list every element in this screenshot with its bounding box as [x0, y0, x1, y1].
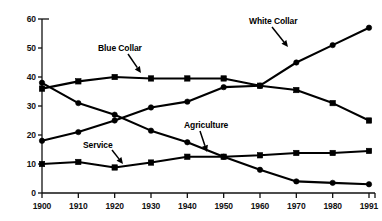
- x-axis-label-1930: 1930: [134, 201, 168, 211]
- x-axis-label-1910: 1910: [61, 201, 95, 211]
- series-line-service: [42, 151, 369, 168]
- marker-blue-collar: [112, 74, 117, 79]
- annotation-label-white-collar: White Collar: [249, 16, 297, 26]
- marker-agriculture: [366, 182, 371, 187]
- marker-white-collar: [257, 83, 262, 88]
- chart-series-lines: [42, 28, 369, 185]
- marker-blue-collar: [294, 87, 299, 92]
- marker-service: [185, 154, 190, 159]
- x-axis-label-1960: 1960: [243, 201, 277, 211]
- marker-white-collar: [185, 99, 190, 104]
- marker-blue-collar: [185, 76, 190, 81]
- x-axis-label-1900: 1900: [25, 201, 59, 211]
- x-axis-label-1980: 1980: [316, 201, 350, 211]
- marker-service: [330, 150, 335, 155]
- marker-agriculture: [330, 180, 335, 185]
- marker-agriculture: [148, 128, 153, 133]
- marker-agriculture: [294, 179, 299, 184]
- marker-service: [148, 160, 153, 165]
- y-axis-label-40: 40: [12, 72, 36, 82]
- marker-service: [257, 153, 262, 158]
- marker-agriculture: [185, 140, 190, 145]
- marker-blue-collar: [39, 86, 44, 91]
- marker-service: [294, 150, 299, 155]
- chart-plot-area: [0, 0, 382, 221]
- marker-white-collar: [39, 138, 44, 143]
- x-axis-label-1970: 1970: [279, 201, 313, 211]
- x-axis-label-1991: 1991: [352, 201, 382, 211]
- marker-agriculture: [257, 167, 262, 172]
- arrow-shaft-service: [112, 150, 119, 159]
- x-axis-label-1940: 1940: [170, 201, 204, 211]
- x-axis-label-1920: 1920: [98, 201, 132, 211]
- y-axis-label-0: 0: [12, 188, 36, 198]
- y-axis-label-60: 60: [12, 14, 36, 24]
- marker-service: [39, 161, 44, 166]
- marker-white-collar: [366, 25, 371, 30]
- annotation-label-blue-collar: Blue Collar: [98, 43, 142, 53]
- marker-blue-collar: [330, 100, 335, 105]
- chart-tick-marks: [38, 19, 375, 198]
- marker-white-collar: [112, 118, 117, 123]
- y-axis-label-10: 10: [12, 159, 36, 169]
- arrow-shaft-agriculture: [200, 131, 205, 146]
- marker-blue-collar: [76, 79, 81, 84]
- marker-agriculture: [39, 80, 44, 85]
- chart-axes: [42, 19, 375, 193]
- arrow-shaft-blue-collar: [128, 54, 137, 68]
- marker-service: [112, 165, 117, 170]
- marker-white-collar: [330, 42, 335, 47]
- employment-sector-line-chart: 0102030405060 19001910192019301940195019…: [0, 0, 382, 221]
- marker-service: [221, 154, 226, 159]
- series-line-blue-collar: [42, 77, 369, 121]
- marker-service: [76, 159, 81, 164]
- marker-blue-collar: [221, 76, 226, 81]
- y-axis-label-20: 20: [12, 130, 36, 140]
- x-axis-label-1950: 1950: [207, 201, 241, 211]
- marker-blue-collar: [148, 76, 153, 81]
- marker-white-collar: [294, 60, 299, 65]
- marker-agriculture: [112, 112, 117, 117]
- y-axis-label-50: 50: [12, 43, 36, 53]
- arrow-head-blue-collar: [135, 66, 141, 73]
- y-axis-label-30: 30: [12, 101, 36, 111]
- marker-white-collar: [148, 105, 153, 110]
- marker-service: [366, 148, 371, 153]
- marker-white-collar: [76, 129, 81, 134]
- annotation-label-agriculture: Agriculture: [184, 120, 228, 130]
- marker-white-collar: [221, 84, 226, 89]
- annotation-label-service: Service: [83, 140, 113, 150]
- arrow-shaft-white-collar: [272, 27, 284, 42]
- marker-agriculture: [76, 100, 81, 105]
- marker-blue-collar: [366, 118, 371, 123]
